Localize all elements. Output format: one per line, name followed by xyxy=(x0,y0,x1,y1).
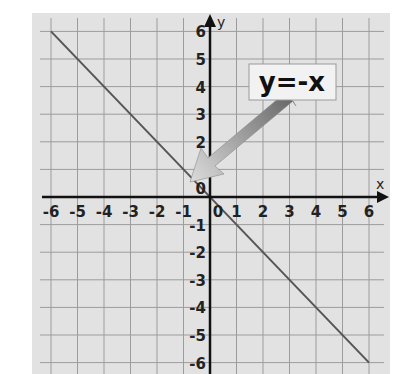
y-tick-label: 4 xyxy=(196,79,206,97)
equation-label: y=-x xyxy=(259,67,326,97)
x-tick-label: -2 xyxy=(149,203,166,221)
y-tick-label: -5 xyxy=(189,327,206,345)
x-tick-label: -6 xyxy=(43,203,60,221)
y-tick-label: 6 xyxy=(196,23,206,41)
x-tick-label: 2 xyxy=(258,203,268,221)
x-axis-label: x xyxy=(376,176,384,192)
x-tick-label: 3 xyxy=(284,203,294,221)
y-axis-label: y xyxy=(217,14,225,30)
y-tick-label: 0 xyxy=(196,180,206,198)
x-tick-label: -3 xyxy=(122,203,139,221)
y-tick-label: -6 xyxy=(189,355,206,373)
x-tick-label: -5 xyxy=(69,203,86,221)
y-tick-label: 3 xyxy=(196,106,206,124)
x-tick-label: 1 xyxy=(231,203,241,221)
x-tick-label: 4 xyxy=(311,203,321,221)
x-tick-label: 5 xyxy=(337,203,347,221)
line-chart: -6-5-4-3-2-10123456-6-5-4-3-2-10123456 x… xyxy=(0,0,403,374)
y-tick-label: 5 xyxy=(196,51,206,69)
x-tick-label: 0 xyxy=(213,203,223,221)
y-tick-label: -2 xyxy=(189,244,206,262)
x-tick-label: -4 xyxy=(96,203,113,221)
y-tick-label: -4 xyxy=(189,299,206,317)
y-tick-label: -3 xyxy=(189,272,206,290)
y-tick-label: -1 xyxy=(189,217,206,235)
x-tick-label: 6 xyxy=(364,203,374,221)
